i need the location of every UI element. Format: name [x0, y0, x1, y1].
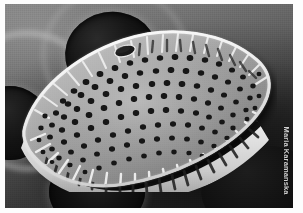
micrograph-plate: Maria Karamanska [5, 4, 293, 208]
micrograph-screenshot: Maria Karamanska [0, 0, 303, 213]
sem-grain-overlay [5, 4, 293, 208]
